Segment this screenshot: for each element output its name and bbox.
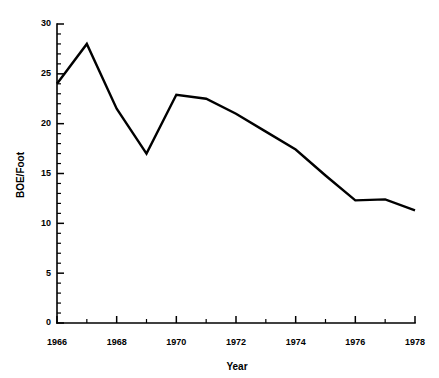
x-axis-tick-label: 1978 bbox=[405, 337, 425, 347]
x-axis-tick-label: 1972 bbox=[226, 337, 246, 347]
y-axis-tick-label: 20 bbox=[41, 118, 51, 128]
x-axis-tick-label: 1968 bbox=[107, 337, 127, 347]
y-axis-tick-labels: 051015202530 bbox=[41, 18, 51, 327]
y-axis-ticks bbox=[57, 24, 64, 323]
chart-container: 051015202530 196619681970197219741976197… bbox=[0, 0, 439, 378]
y-axis-tick-label: 25 bbox=[41, 68, 51, 78]
y-axis-tick-label: 15 bbox=[41, 168, 51, 178]
data-series-line bbox=[57, 44, 415, 210]
x-axis-tick-labels: 1966196819701972197419761978 bbox=[47, 337, 425, 347]
x-axis-ticks bbox=[57, 316, 415, 323]
x-axis-title: Year bbox=[226, 361, 247, 372]
x-axis-tick-label: 1974 bbox=[286, 337, 306, 347]
x-axis-tick-label: 1976 bbox=[345, 337, 365, 347]
x-axis-tick-label: 1966 bbox=[47, 337, 67, 347]
y-axis-tick-label: 5 bbox=[46, 268, 51, 278]
line-chart: 051015202530 196619681970197219741976197… bbox=[0, 0, 439, 378]
y-axis-tick-label: 10 bbox=[41, 218, 51, 228]
y-axis-tick-label: 0 bbox=[46, 317, 51, 327]
y-axis-tick-label: 30 bbox=[41, 18, 51, 28]
x-axis-tick-label: 1970 bbox=[166, 337, 186, 347]
y-axis-title: BOE/Foot bbox=[15, 151, 26, 198]
